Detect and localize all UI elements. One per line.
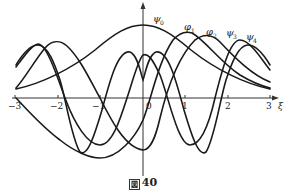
svg-text:φ: φ bbox=[206, 26, 213, 37]
tick-label-neg2: −2 bbox=[50, 101, 63, 111]
caption-number: 40 bbox=[142, 176, 157, 189]
svg-text:1: 1 bbox=[191, 27, 195, 34]
x-axis-label: ξ bbox=[278, 101, 284, 111]
label-psi4: ψ 4 bbox=[246, 31, 257, 44]
svg-text:4: 4 bbox=[253, 37, 257, 44]
figure-caption: 図40 bbox=[0, 176, 286, 190]
svg-text:2: 2 bbox=[213, 32, 217, 39]
caption-prefix: 図 bbox=[129, 179, 140, 190]
wavefunction-diagram: −3 −2 −1 0 1 2 3 ξ ψ 0 φ 1 φ 2 ψ bbox=[0, 0, 286, 193]
x-axis-arrow-icon bbox=[272, 96, 279, 101]
y-axis-arrow-icon bbox=[141, 2, 146, 9]
tick-label-3: 3 bbox=[266, 101, 272, 111]
tick-label-2: 2 bbox=[225, 101, 231, 111]
svg-text:3: 3 bbox=[233, 33, 237, 40]
label-psi0: ψ 0 bbox=[153, 13, 164, 26]
label-psi3: ψ 3 bbox=[226, 27, 237, 40]
svg-text:φ: φ bbox=[184, 21, 191, 32]
svg-text:0: 0 bbox=[160, 19, 164, 26]
